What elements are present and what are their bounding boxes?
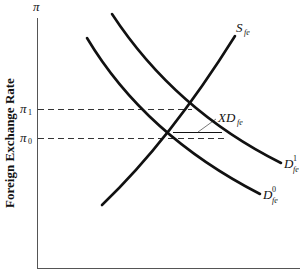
svg-text:π: π (20, 101, 27, 116)
svg-text:0: 0 (28, 137, 32, 146)
tick-label-pi1: π 1 (20, 101, 32, 117)
svg-text:fe: fe (244, 28, 250, 37)
svg-text:1: 1 (28, 108, 32, 117)
svg-text:fe: fe (237, 118, 243, 127)
svg-text:fe: fe (293, 165, 299, 174)
y-axis-symbol: π (33, 0, 40, 14)
tick-label-pi0: π 0 (20, 130, 32, 146)
exchange-rate-diagram: π Foreign Exchange Rate π 1 π 0 S fe D (0, 0, 305, 274)
svg-text:fe: fe (272, 196, 278, 205)
supply-curve (102, 36, 235, 205)
y-axis-title: Foreign Exchange Rate (2, 78, 17, 208)
svg-text:0: 0 (272, 185, 276, 194)
svg-text:1: 1 (293, 154, 297, 163)
demand-curve-0-label: D 0 fe (262, 185, 278, 205)
supply-curve-label: S fe (236, 20, 250, 37)
demand-curve-1-label: D 1 fe (283, 154, 299, 174)
excess-demand-label: XD fe (217, 110, 243, 127)
svg-text:S: S (236, 20, 243, 35)
svg-text:π: π (20, 130, 27, 145)
svg-text:XD: XD (217, 110, 236, 125)
demand-curve-1 (112, 14, 281, 163)
